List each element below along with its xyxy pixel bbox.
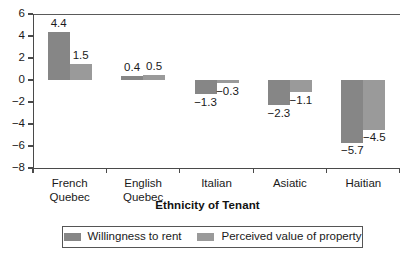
y-tick-label: −4 <box>0 118 25 130</box>
plot-area: 4.41.50.40.5−1.3−0.3−2.3−1.1−5.7−4.5 <box>33 14 400 168</box>
y-tick-label: 2 <box>0 52 25 64</box>
bar-value-label: −0.3 <box>208 86 248 98</box>
x-axis-line <box>33 168 400 169</box>
x-tick <box>253 168 254 173</box>
category-label-line: French <box>33 177 106 191</box>
bar-value-label: 0.5 <box>134 61 174 73</box>
y-tick <box>28 13 33 14</box>
y-tick <box>28 145 33 146</box>
bar-value-label: 1.5 <box>61 50 101 62</box>
bar <box>70 64 92 81</box>
category-label: Haitian <box>327 177 400 191</box>
bar-value-label: −5.7 <box>332 145 372 157</box>
category-label-line: English <box>106 177 179 191</box>
x-tick <box>32 168 33 173</box>
chart-legend: Willingness to rent Perceived value of p… <box>62 226 363 248</box>
y-tick-label: −2 <box>0 96 25 108</box>
x-tick <box>179 168 180 173</box>
y-tick-label: 0 <box>0 74 25 86</box>
legend-swatch-icon <box>197 233 214 241</box>
y-axis-line <box>33 14 34 168</box>
category-label-line: Asiatic <box>253 177 326 191</box>
chart-figure: 4.41.50.40.5−1.3−0.3−2.3−1.1−5.7−4.5 642… <box>0 0 415 265</box>
y-tick-label: 4 <box>0 30 25 42</box>
bar <box>143 75 165 81</box>
y-tick-label: 6 <box>0 8 25 20</box>
y-tick <box>28 35 33 36</box>
zero-baseline <box>33 14 400 15</box>
x-tick <box>399 168 400 173</box>
y-tick-label: −6 <box>0 140 25 152</box>
category-label: Asiatic <box>253 177 326 191</box>
bar-value-label: −1.3 <box>186 97 226 109</box>
x-tick <box>106 168 107 173</box>
bar-value-label: −1.1 <box>281 95 321 107</box>
legend-label: Perceived value of property <box>221 231 361 243</box>
category-label-line: Haitian <box>327 177 400 191</box>
bar-value-label: −2.3 <box>259 108 299 120</box>
bar <box>363 80 385 130</box>
bar-value-label: −4.5 <box>354 132 394 144</box>
y-tick <box>28 79 33 80</box>
y-tick <box>28 123 33 124</box>
y-tick <box>28 57 33 58</box>
legend-swatch-icon <box>64 233 81 241</box>
bar <box>217 80 239 83</box>
legend-entry-perceived-value: Perceived value of property <box>197 231 361 243</box>
y-tick <box>28 101 33 102</box>
legend-label: Willingness to rent <box>88 231 182 243</box>
category-label: Italian <box>180 177 253 191</box>
bar <box>121 76 143 80</box>
bar <box>290 80 312 92</box>
legend-entry-willingness-to-rent: Willingness to rent <box>64 231 182 243</box>
x-tick <box>326 168 327 173</box>
y-tick-label: −8 <box>0 162 25 174</box>
bar-value-label: 4.4 <box>39 18 79 30</box>
x-axis-title: Ethnicity of Tenant <box>0 199 415 211</box>
category-label-line: Italian <box>180 177 253 191</box>
